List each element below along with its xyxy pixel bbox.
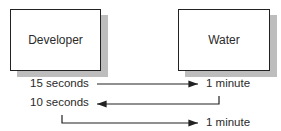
flow-arrows [0,0,281,131]
arrow-right-icon [62,115,198,123]
arrow-left-icon [97,96,219,104]
